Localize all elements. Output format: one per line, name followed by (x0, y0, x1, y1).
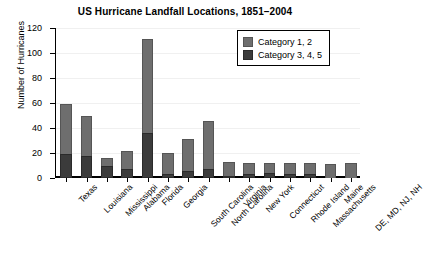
bar-segment-category-1-2 (101, 158, 113, 166)
bar-segment-category-3-4-5 (142, 133, 154, 178)
y-axis-label: Number of Hurricanes (16, 5, 26, 125)
bar-segment-category-3-4-5 (182, 171, 194, 179)
y-tick-label: 20 (32, 148, 42, 158)
bar-segment-category-1-2 (284, 163, 296, 174)
bar-group (121, 151, 133, 179)
y-tick: 100 (50, 53, 55, 54)
bar-segment-category-1-2 (142, 39, 154, 133)
bar-segment-category-1-2 (162, 153, 174, 174)
bar-segment-category-1-2 (121, 151, 133, 170)
bar-segment-category-3-4-5 (60, 154, 72, 178)
bar-segment-category-3-4-5 (203, 169, 215, 178)
bar-group (325, 164, 337, 178)
bar-segment-category-1-2 (182, 139, 194, 170)
bar-segment-category-1-2 (264, 163, 276, 173)
y-tick-label: 80 (32, 73, 42, 83)
bar-segment-category-1-2 (60, 104, 72, 154)
chart-legend: Category 1, 2 Category 3, 4, 5 (237, 30, 330, 66)
y-tick: 40 (50, 128, 55, 129)
bar-group (304, 163, 316, 178)
bar-segment-category-1-2 (345, 163, 357, 178)
bar-segment-category-3-4-5 (81, 156, 93, 179)
bar-group (284, 163, 296, 178)
y-tick-label: 60 (32, 98, 42, 108)
x-axis-tick-label: Georgia (181, 182, 209, 210)
bar-group (182, 139, 194, 178)
bar-group (101, 158, 113, 178)
chart-title: US Hurricane Landfall Locations, 1851–20… (0, 6, 370, 17)
bar-group (223, 162, 235, 178)
legend-entry-category-1-2: Category 1, 2 (243, 35, 322, 48)
bar-segment-category-1-2 (203, 121, 215, 170)
y-tick: 60 (50, 103, 55, 104)
bar-group (142, 39, 154, 178)
x-axis-tick-label: Texas (77, 182, 100, 205)
bar-group (60, 104, 72, 178)
y-tick: 0 (50, 178, 55, 179)
bar-segment-category-3-4-5 (101, 166, 113, 179)
y-tick-label: 100 (27, 48, 42, 58)
y-tick-label: 0 (37, 173, 42, 183)
bar-group (81, 116, 93, 179)
bar-group (243, 163, 255, 178)
x-axis-labels: TexasLouisianaMississippiAlabamaFloridaG… (55, 182, 360, 252)
legend-entry-category-3-4-5: Category 3, 4, 5 (243, 48, 322, 61)
bar-segment-category-1-2 (223, 162, 235, 176)
y-tick-label: 40 (32, 123, 42, 133)
x-axis-tick-label: DE, MD, NJ, NH (373, 182, 424, 233)
dark-gray-swatch-icon (243, 50, 253, 60)
bar-segment-category-1-2 (325, 164, 337, 178)
bar-segment-category-1-2 (81, 116, 93, 156)
bar-segment-category-1-2 (243, 163, 255, 174)
y-tick: 20 (50, 153, 55, 154)
y-tick-label: 120 (27, 23, 42, 33)
bar-group (345, 163, 357, 178)
bar-segment-category-1-2 (304, 163, 316, 174)
bar-group (203, 121, 215, 179)
bar-group (162, 153, 174, 178)
light-gray-swatch-icon (243, 37, 253, 47)
bar-group (264, 163, 276, 178)
legend-label: Category 3, 4, 5 (258, 50, 322, 60)
y-tick: 80 (50, 78, 55, 79)
y-tick: 120 (50, 28, 55, 29)
bar-segment-category-3-4-5 (121, 169, 133, 178)
legend-label: Category 1, 2 (258, 37, 312, 47)
